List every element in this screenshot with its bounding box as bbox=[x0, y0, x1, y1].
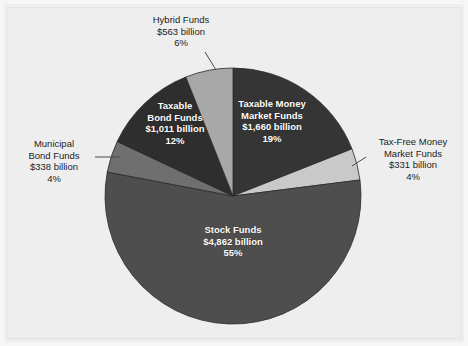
slice-label-taxable-bond-funds: Taxable Bond Funds $1,011 billion 12% bbox=[124, 100, 226, 146]
slice-label-percent: 55% bbox=[162, 247, 304, 259]
slice-label-value: $338 billion bbox=[8, 161, 100, 173]
slice-label-percent: 6% bbox=[122, 37, 240, 49]
slice-label-percent: 4% bbox=[8, 173, 100, 185]
slice-label-percent: 19% bbox=[216, 133, 328, 145]
slice-label-name-2: Market Funds bbox=[216, 110, 328, 122]
slice-label-hybrid-funds: Hybrid Funds $563 billion 6% bbox=[122, 14, 240, 49]
slice-label-value: $4,862 billion bbox=[162, 236, 304, 248]
slice-label-value: $1,011 billion bbox=[124, 123, 226, 135]
slice-label-name: Taxable bbox=[124, 100, 226, 112]
slice-label-name: Municipal bbox=[8, 138, 100, 150]
slice-label-name-2: Bond Funds bbox=[8, 150, 100, 162]
slice-label-tax-free-money-market-funds: Tax-Free Money Market Funds $331 billion… bbox=[364, 136, 462, 182]
slice-label-value: $331 billion bbox=[364, 159, 462, 171]
slice-label-value: $563 billion bbox=[122, 26, 240, 38]
slice-label-percent: 4% bbox=[364, 171, 462, 183]
slice-label-value: $1,660 billion bbox=[216, 121, 328, 133]
slice-label-name: Hybrid Funds bbox=[122, 14, 240, 26]
chart-canvas: Hybrid Funds $563 billion 6% Taxable Mon… bbox=[0, 0, 468, 346]
slice-label-percent: 12% bbox=[124, 135, 226, 147]
slice-label-name-2: Market Funds bbox=[364, 148, 462, 160]
slice-label-taxable-money-market-funds: Taxable Money Market Funds $1,660 billio… bbox=[216, 98, 328, 144]
slice-label-municipal-bond-funds: Municipal Bond Funds $338 billion 4% bbox=[8, 138, 100, 184]
slice-label-stock-funds: Stock Funds $4,862 billion 55% bbox=[162, 224, 304, 259]
slice-label-name: Taxable Money bbox=[216, 98, 328, 110]
slice-label-name-2: Bond Funds bbox=[124, 112, 226, 124]
leader-line-hybrid-funds bbox=[205, 52, 216, 70]
slice-label-name: Stock Funds bbox=[162, 224, 304, 236]
slice-label-name: Tax-Free Money bbox=[364, 136, 462, 148]
